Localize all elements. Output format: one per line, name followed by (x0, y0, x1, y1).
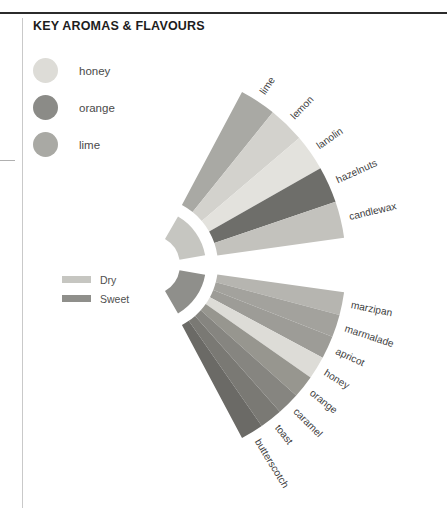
fan-group-arc (165, 217, 205, 260)
fan-wedge-label: apricot (334, 346, 367, 369)
fan-wedge-label: lime (258, 75, 278, 97)
fan-wedge-label: candlewax (348, 200, 397, 222)
fan-wedge-label: marzipan (350, 299, 393, 318)
fan-wedge-label: lemon (288, 94, 315, 122)
fan-group-arc (165, 270, 205, 313)
fan-wedge-label: hazelnuts (334, 157, 378, 185)
fan-wedge-label: caramel (291, 406, 324, 439)
fan-wedge-label: marmalade (343, 323, 395, 349)
aroma-fan-chart: limelemonlanolinhazelnutscandlewaxmarzip… (0, 0, 447, 508)
fan-wedge-label: lanolin (314, 125, 344, 151)
fan-wedge-label: honey (322, 367, 352, 391)
fan-wedge-label: toast (273, 422, 295, 446)
aroma-flavour-panel: KEY AROMAS & FLAVOURS honey orange lime … (0, 0, 447, 508)
fan-wedge-label: orange (308, 387, 340, 416)
